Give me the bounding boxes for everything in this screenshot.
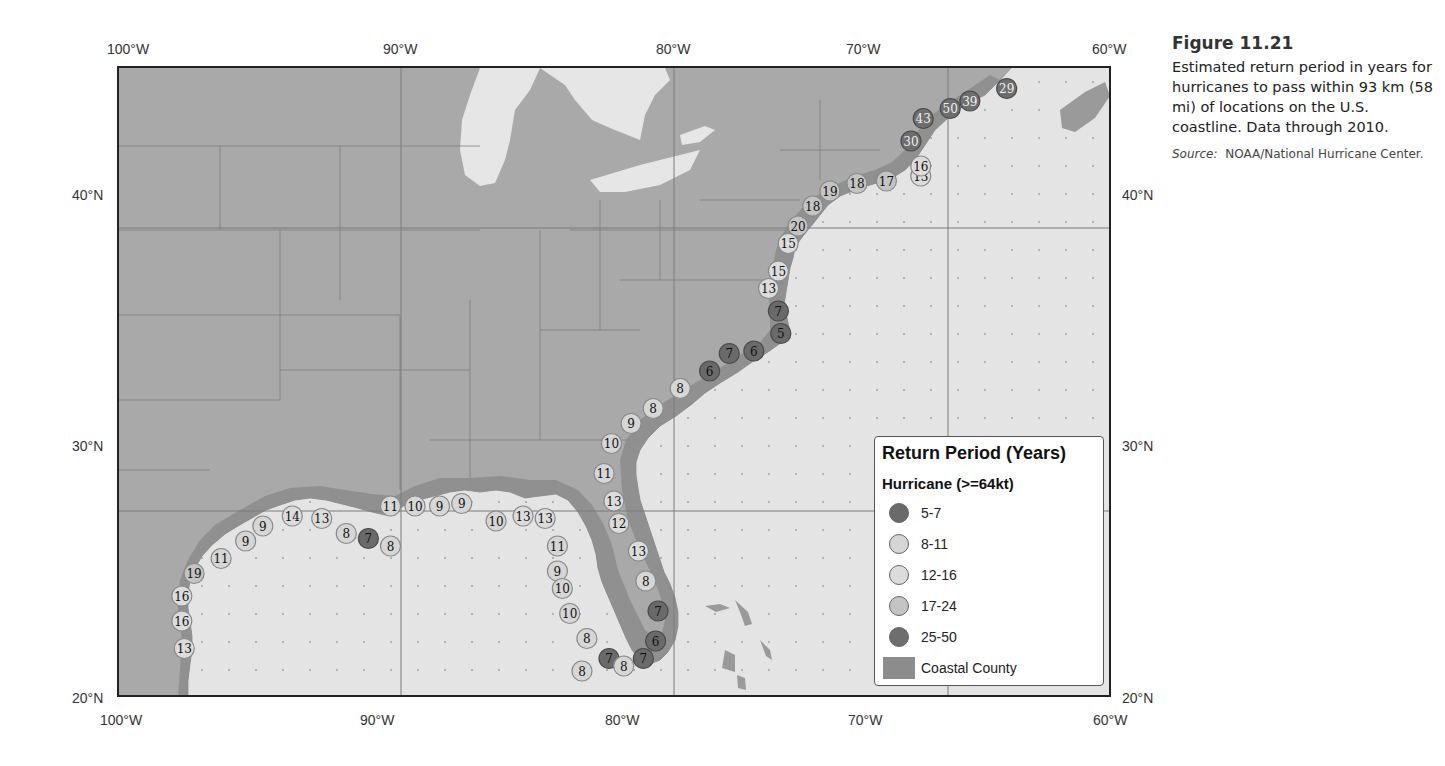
grid-dot <box>417 641 419 643</box>
grid-dot <box>498 557 500 559</box>
grid-dot <box>849 221 851 223</box>
grid-dot <box>1038 333 1040 335</box>
grid-dot <box>714 473 716 475</box>
return-period-marker: 39 <box>960 91 980 111</box>
marker-value: 11 <box>596 467 611 481</box>
grid-dot <box>984 417 986 419</box>
grid-dot <box>849 305 851 307</box>
grid-dot <box>984 221 986 223</box>
grid-dot <box>525 529 527 531</box>
grid-dot <box>741 529 743 531</box>
return-period-marker: 13 <box>535 509 555 529</box>
grid-dot <box>741 445 743 447</box>
return-period-marker: 7 <box>633 649 653 669</box>
grid-dot <box>795 473 797 475</box>
marker-value: 13 <box>761 282 776 296</box>
grid-dot <box>1092 137 1094 139</box>
grid-dot <box>822 641 824 643</box>
marker-value: 18 <box>805 200 820 214</box>
grid-dot <box>336 641 338 643</box>
grid-dot <box>903 361 905 363</box>
marker-value: 9 <box>627 417 635 431</box>
return-period-marker: 17 <box>876 171 896 191</box>
marker-value: 8 <box>578 665 586 679</box>
coastal-county-swatch-icon <box>883 657 915 679</box>
grid-dot <box>471 529 473 531</box>
grid-dot <box>660 529 662 531</box>
return-period-marker: 19 <box>184 564 204 584</box>
marker-value: 19 <box>186 567 201 581</box>
marker-value: 8 <box>342 527 350 541</box>
grid-dot <box>1065 389 1067 391</box>
grid-dot <box>768 417 770 419</box>
grid-dot <box>795 417 797 419</box>
marker-value: 7 <box>365 532 373 546</box>
grid-dot <box>849 613 851 615</box>
grid-dot <box>498 501 500 503</box>
return-period-marker: 9 <box>452 494 472 514</box>
grid-dot <box>1092 81 1094 83</box>
grid-dot <box>282 585 284 587</box>
grid-dot <box>444 641 446 643</box>
lon-label-bottom-80w: 80°W <box>605 712 639 728</box>
return-period-marker: 13 <box>174 639 194 659</box>
marker-value: 8 <box>676 382 684 396</box>
grid-dot <box>1065 333 1067 335</box>
grid-dot <box>606 669 608 671</box>
grid-dot <box>849 585 851 587</box>
grid-dot <box>1038 137 1040 139</box>
return-period-marker: 13 <box>628 541 648 561</box>
grid-dot <box>714 557 716 559</box>
marker-value: 50 <box>943 102 958 116</box>
grid-dot <box>903 193 905 195</box>
grid-dot <box>957 305 959 307</box>
lon-label-top-70w: 70°W <box>846 41 880 57</box>
grid-dot <box>795 305 797 307</box>
grid-dot <box>849 389 851 391</box>
grid-dot <box>957 333 959 335</box>
grid-dot <box>876 333 878 335</box>
legend-label: 5-7 <box>921 505 941 521</box>
grid-dot <box>768 557 770 559</box>
grid-dot <box>606 641 608 643</box>
grid-dot <box>228 669 230 671</box>
grid-dot <box>903 249 905 251</box>
grid-dot <box>1011 249 1013 251</box>
grid-dot <box>822 277 824 279</box>
grid-dot <box>984 137 986 139</box>
grid-dot <box>552 557 554 559</box>
return-period-marker: 13 <box>312 509 332 529</box>
grid-dot <box>1038 221 1040 223</box>
grid-dot <box>660 445 662 447</box>
grid-dot <box>741 389 743 391</box>
return-period-marker: 10 <box>405 496 425 516</box>
grid-dot <box>1038 109 1040 111</box>
grid-dot <box>795 669 797 671</box>
grid-dot <box>255 613 257 615</box>
grid-dot <box>849 529 851 531</box>
grid-dot <box>714 641 716 643</box>
grid-dot <box>471 613 473 615</box>
return-period-marker: 10 <box>552 579 572 599</box>
return-period-marker: 9 <box>621 414 641 434</box>
grid-dot <box>768 613 770 615</box>
grid-dot <box>714 613 716 615</box>
grid-dot <box>984 109 986 111</box>
return-period-marker: 7 <box>768 301 788 321</box>
grid-dot <box>984 305 986 307</box>
grid-dot <box>768 501 770 503</box>
grid-dot <box>957 221 959 223</box>
grid-dot <box>903 333 905 335</box>
grid-dot <box>1011 333 1013 335</box>
grid-dot <box>1038 417 1040 419</box>
grid-dot <box>714 669 716 671</box>
return-period-marker: 13 <box>604 491 624 511</box>
legend-swatch-icon <box>889 627 909 647</box>
grid-dot <box>849 193 851 195</box>
grid-dot <box>1011 389 1013 391</box>
grid-dot <box>525 501 527 503</box>
grid-dot <box>714 501 716 503</box>
grid-dot <box>444 669 446 671</box>
grid-dot <box>930 277 932 279</box>
marker-value: 19 <box>822 185 837 199</box>
